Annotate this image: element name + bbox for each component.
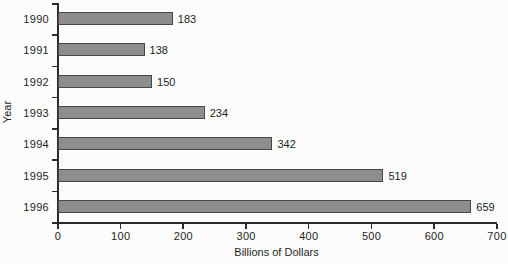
x-tick-label: 400 — [287, 230, 331, 242]
x-axis-tick — [120, 224, 122, 229]
value-label-1994: 342 — [277, 138, 295, 150]
x-tick-label: 200 — [161, 230, 205, 242]
x-axis-tick — [371, 224, 373, 229]
bar-1990 — [58, 12, 173, 25]
x-tick-label: 0 — [36, 230, 80, 242]
x-axis-tick — [57, 224, 59, 229]
value-label-1991: 138 — [150, 44, 168, 56]
x-axis-tick — [245, 224, 247, 229]
x-axis-tick — [433, 224, 435, 229]
year-label-1994: 1994 — [0, 138, 49, 150]
bar-1993 — [58, 106, 205, 119]
bar-1991 — [58, 43, 145, 56]
year-label-1995: 1995 — [0, 170, 49, 182]
y-axis-tick — [52, 97, 57, 99]
value-label-1990: 183 — [178, 13, 196, 25]
value-label-1995: 519 — [388, 170, 406, 182]
year-label-1991: 1991 — [0, 44, 49, 56]
x-tick-label: 500 — [350, 230, 394, 242]
value-label-1993: 234 — [210, 107, 228, 119]
y-axis-tick — [52, 191, 57, 193]
bar-1995 — [58, 169, 383, 182]
x-axis-tick — [308, 224, 310, 229]
bar-1992 — [58, 75, 152, 88]
x-axis-title: Billions of Dollars — [57, 246, 496, 258]
x-tick-label: 600 — [412, 230, 456, 242]
bar-chart: Year Billions of Dollars 010020030040050… — [0, 0, 508, 264]
year-label-1996: 1996 — [0, 201, 49, 213]
x-axis-tick — [182, 224, 184, 229]
bar-1994 — [58, 137, 272, 150]
bar-1996 — [58, 200, 471, 213]
value-label-1992: 150 — [157, 76, 175, 88]
year-label-1990: 1990 — [0, 13, 49, 25]
y-axis-tick — [52, 3, 57, 5]
y-axis-tick — [52, 128, 57, 130]
y-axis-tick — [52, 66, 57, 68]
x-tick-label: 300 — [224, 230, 268, 242]
x-axis-line — [57, 222, 497, 224]
year-label-1992: 1992 — [0, 76, 49, 88]
value-label-1996: 659 — [476, 201, 494, 213]
x-axis-tick — [496, 224, 498, 229]
year-label-1993: 1993 — [0, 107, 49, 119]
x-tick-label: 700 — [475, 230, 508, 242]
x-tick-label: 100 — [99, 230, 143, 242]
y-axis-tick — [52, 159, 57, 161]
y-axis-tick — [52, 34, 57, 36]
